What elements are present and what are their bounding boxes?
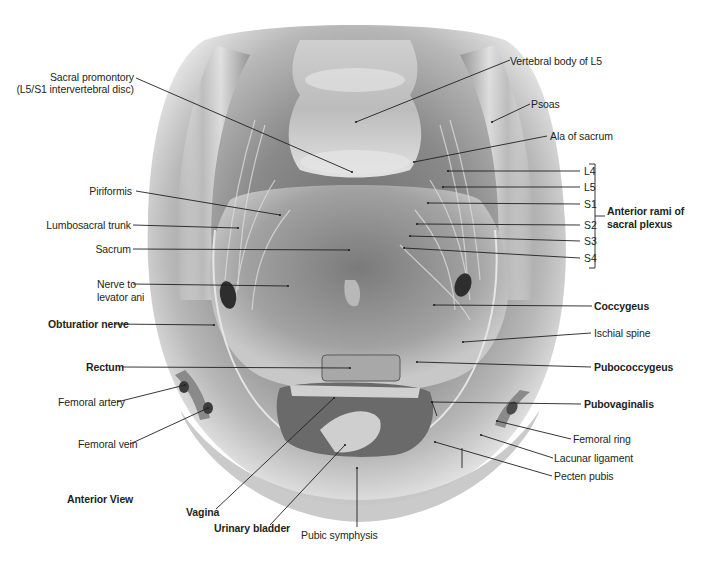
- label-l5: L5: [584, 181, 595, 193]
- label-sacral-promontory: Sacral promontory: [50, 71, 134, 83]
- label-nerve-to-levator-1: Nerve to: [97, 278, 136, 290]
- label-rectum: Rectum: [86, 361, 124, 373]
- label-obturator-nerve: Obturatior nerve: [48, 318, 129, 330]
- label-urinary-bladder: Urinary bladder: [214, 522, 290, 534]
- label-anterior-rami-1: Anterior rami of: [607, 205, 684, 217]
- label-vertebral-body-l5: Vertebral body of L5: [510, 55, 602, 67]
- label-s3: S3: [584, 235, 597, 247]
- label-s1: S1: [584, 198, 597, 210]
- label-anterior-rami-2: sacral plexus: [607, 218, 672, 230]
- label-s2: S2: [584, 219, 597, 231]
- label-anterior-view: Anterior View: [67, 493, 133, 505]
- pelvic-floor-illustration: Sacral promontory (L5/S1 intervertebral …: [0, 0, 706, 570]
- label-vagina: Vagina: [186, 506, 219, 518]
- label-ischial-spine: Ischial spine: [594, 327, 650, 339]
- label-sacrum: Sacrum: [95, 243, 131, 255]
- label-lumbosacral-trunk: Lumbosacral trunk: [46, 219, 131, 231]
- label-psoas: Psoas: [531, 98, 560, 110]
- label-pubovaginalis: Pubovaginalis: [584, 398, 654, 410]
- label-l4: L4: [584, 165, 595, 177]
- label-ala-of-sacrum: Ala of sacrum: [550, 130, 613, 142]
- label-femoral-ring: Femoral ring: [573, 433, 631, 445]
- label-piriformis: Piriformis: [89, 185, 132, 197]
- label-femoral-vein: Femoral vein: [78, 438, 138, 450]
- label-femoral-artery: Femoral artery: [58, 396, 125, 408]
- label-pubic-symphysis: Pubic symphysis: [301, 529, 378, 541]
- label-sacral-promontory-sub: (L5/S1 intervertebral disc): [16, 83, 134, 95]
- label-pubococcygeus: Pubococcygeus: [594, 361, 673, 373]
- label-coccygeus: Coccygeus: [594, 300, 649, 312]
- label-s4: S4: [584, 252, 597, 264]
- label-pecten-pubis: Pecten pubis: [554, 470, 614, 482]
- label-nerve-to-levator-2: levator ani: [97, 291, 144, 303]
- label-lacunar-ligament: Lacunar ligament: [554, 452, 633, 464]
